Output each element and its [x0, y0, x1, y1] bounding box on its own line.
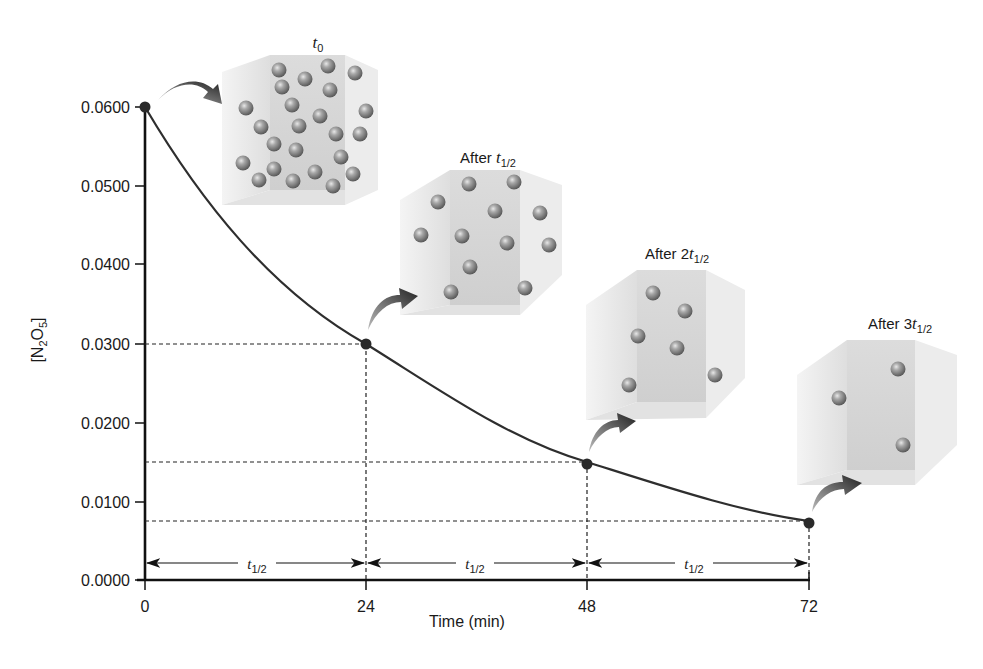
half-life-intervals: t1/2 t1/2 t1/2 — [147, 556, 807, 575]
box-label-3half: After 3t1/2 — [868, 314, 932, 335]
interval-label-2: t1/2 — [465, 556, 484, 575]
arrow-to-box-t0 — [158, 81, 222, 104]
data-point — [361, 339, 372, 350]
molecule-box-2half: After 2t1/2 — [586, 244, 745, 420]
x-tick-label: 48 — [578, 598, 596, 615]
molecule-box-half: After t1/2 — [400, 148, 562, 315]
data-point — [140, 102, 151, 113]
y-tick-label: 0.0100 — [81, 494, 130, 511]
y-tick-label: 0.0200 — [81, 415, 130, 432]
interval-label-1: t1/2 — [247, 556, 266, 575]
y-tick-label: 0.0600 — [81, 99, 130, 116]
data-point — [582, 459, 593, 470]
x-tick-label: 0 — [141, 598, 150, 615]
box-label-t0: t0 — [313, 33, 324, 54]
y-tick-label: 0.0500 — [81, 178, 130, 195]
interval-label-3: t1/2 — [684, 556, 703, 575]
y-tick-label: 0.0400 — [81, 256, 130, 273]
y-axis: 0.0600 0.0500 0.0400 0.0300 0.0200 0.010… — [29, 99, 145, 589]
data-point — [804, 518, 815, 529]
y-tick-label: 0.0000 — [81, 572, 130, 589]
molecule-box-3half: After 3t1/2 — [797, 314, 957, 485]
y-ticks — [135, 107, 145, 580]
x-axis: 0 24 48 72 Time (min) — [137, 572, 818, 630]
molecule-box-t0: t0 — [222, 33, 378, 205]
x-tick-label: 72 — [800, 598, 818, 615]
box-label-half: After t1/2 — [460, 148, 516, 169]
x-axis-title: Time (min) — [429, 613, 505, 630]
chart-canvas: 0.0600 0.0500 0.0400 0.0300 0.0200 0.010… — [0, 0, 983, 669]
box-label-2half: After 2t1/2 — [645, 244, 709, 265]
y-axis-title: [N2O5] — [29, 317, 49, 362]
x-tick-label: 24 — [357, 598, 375, 615]
y-tick-label: 0.0300 — [81, 336, 130, 353]
